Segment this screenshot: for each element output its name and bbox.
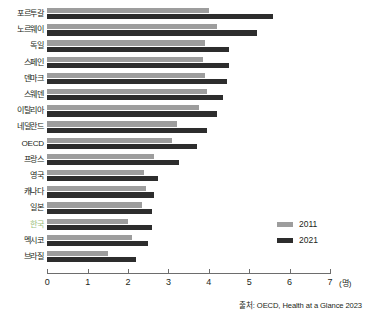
bar-2021 <box>47 128 207 133</box>
x-axis-tick <box>249 269 250 274</box>
category-label: 캐나다 <box>0 184 44 200</box>
bar-2021 <box>47 241 148 246</box>
bar-2011 <box>47 40 205 45</box>
bar-2021 <box>47 144 196 149</box>
category-label: 스웨덴 <box>0 87 44 103</box>
chart-row: 포르투갈 <box>0 6 366 22</box>
x-axis: 01234567 (명) <box>0 269 366 299</box>
x-axis-line <box>47 273 330 274</box>
bar-2011 <box>47 202 142 207</box>
bar-2021 <box>47 47 229 52</box>
bar-2011 <box>47 57 202 62</box>
chart-row: OECD <box>0 136 366 152</box>
chart-container: 포르투갈노르웨이독일스페인덴마크스웨덴이탈리아네덜란드OECD프랑스영국캐나다일… <box>0 0 366 322</box>
legend-item: 2011 <box>277 218 363 231</box>
bar-2021 <box>47 160 178 165</box>
x-axis-unit-label: (명) <box>339 277 351 288</box>
bar-2011 <box>47 105 198 110</box>
x-axis-tick <box>209 269 210 274</box>
category-label: 한국 <box>0 217 44 233</box>
bar-2011 <box>47 73 205 78</box>
bar-2011 <box>47 154 154 159</box>
category-label: 노르웨이 <box>0 22 44 38</box>
category-label: 브라질 <box>0 249 44 265</box>
x-axis-tick-label: 0 <box>34 277 60 287</box>
category-label: 스페인 <box>0 55 44 71</box>
chart-row: 영국 <box>0 168 366 184</box>
bar-2021 <box>47 79 227 84</box>
category-label: 포르투갈 <box>0 6 44 22</box>
bar-2011 <box>47 219 128 224</box>
chart-row: 캐나다 <box>0 184 366 200</box>
category-label: 프랑스 <box>0 152 44 168</box>
chart-row: 네덜란드 <box>0 119 366 135</box>
category-label: 덴마크 <box>0 71 44 87</box>
bar-2011 <box>47 24 217 29</box>
legend-label: 2021 <box>299 236 318 245</box>
chart-row: 브라질 <box>0 249 366 265</box>
bar-2011 <box>47 121 176 126</box>
legend-swatch-icon <box>277 222 293 227</box>
chart-row: 일본 <box>0 200 366 216</box>
chart-row: 독일 <box>0 38 366 54</box>
bar-2011 <box>47 89 207 94</box>
chart-row: 덴마크 <box>0 71 366 87</box>
chart-legend: 20112021 <box>277 218 363 250</box>
bar-2021 <box>47 209 152 214</box>
x-axis-tick <box>168 269 169 274</box>
source-note: 출처: OECD, Health at a Glance 2023 <box>239 299 362 310</box>
category-label: 독일 <box>0 38 44 54</box>
bar-2011 <box>47 8 209 13</box>
bar-2011 <box>47 251 108 256</box>
category-label: 이탈리아 <box>0 103 44 119</box>
bar-2021 <box>47 14 273 19</box>
bar-2021 <box>47 176 158 181</box>
bar-2021 <box>47 95 223 100</box>
chart-row: 이탈리아 <box>0 103 366 119</box>
legend-swatch-icon <box>277 238 293 243</box>
legend-label: 2011 <box>299 220 317 229</box>
category-label: 일본 <box>0 200 44 216</box>
bar-2021 <box>47 111 217 116</box>
x-axis-tick-label: 4 <box>196 277 222 287</box>
bar-2021 <box>47 192 154 197</box>
bar-2021 <box>47 30 257 35</box>
x-axis-tick <box>88 269 89 274</box>
bar-2011 <box>47 138 172 143</box>
chart-row: 노르웨이 <box>0 22 366 38</box>
category-label: 멕시코 <box>0 233 44 249</box>
category-label: 네덜란드 <box>0 119 44 135</box>
bar-2011 <box>47 170 144 175</box>
chart-row: 스페인 <box>0 55 366 71</box>
bar-2021 <box>47 63 229 68</box>
x-axis-tick-label: 3 <box>155 277 181 287</box>
chart-row: 스웨덴 <box>0 87 366 103</box>
bar-2011 <box>47 186 146 191</box>
chart-row: 프랑스 <box>0 152 366 168</box>
bar-2021 <box>47 225 152 230</box>
x-axis-tick <box>330 269 331 274</box>
bar-2021 <box>47 257 136 262</box>
legend-item: 2021 <box>277 234 363 247</box>
bar-2011 <box>47 235 132 240</box>
x-axis-tick-label: 5 <box>236 277 262 287</box>
category-label: OECD <box>0 136 44 152</box>
category-label: 영국 <box>0 168 44 184</box>
x-axis-tick <box>47 269 48 274</box>
x-axis-tick-label: 2 <box>115 277 141 287</box>
x-axis-tick <box>290 269 291 274</box>
x-axis-tick-label: 1 <box>75 277 101 287</box>
x-axis-tick <box>128 269 129 274</box>
x-axis-tick-label: 6 <box>277 277 303 287</box>
